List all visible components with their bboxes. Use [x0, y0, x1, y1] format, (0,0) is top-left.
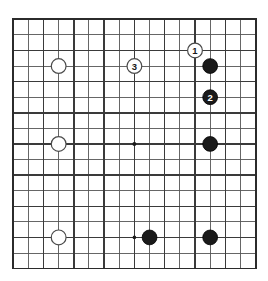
stone-black	[142, 230, 157, 245]
black-stone-disc	[203, 137, 218, 152]
move-number-label: 1	[192, 45, 198, 56]
stone-white	[51, 230, 66, 245]
black-stone-disc	[203, 230, 218, 245]
stone-black	[203, 230, 218, 245]
go-board-container: 123	[0, 0, 268, 281]
stone-white	[51, 59, 66, 74]
move-number-label: 2	[208, 92, 213, 103]
star-point-marker	[133, 236, 137, 240]
stone-black	[203, 137, 218, 152]
white-stone-disc	[51, 59, 66, 74]
black-stone-disc	[142, 230, 157, 245]
go-diagram-screenshot: 123	[0, 0, 268, 281]
move-stone-2: 2	[203, 90, 218, 105]
stone-black	[203, 59, 218, 74]
white-stone-disc	[51, 230, 66, 245]
black-stone-disc	[203, 59, 218, 74]
move-stone-1: 1	[188, 43, 203, 58]
go-board-svg: 123	[0, 0, 268, 281]
star-point-marker	[132, 142, 136, 146]
white-stone-disc	[51, 137, 66, 152]
move-stone-3: 3	[127, 59, 142, 74]
stone-white	[51, 137, 66, 152]
move-number-label: 3	[132, 61, 137, 72]
